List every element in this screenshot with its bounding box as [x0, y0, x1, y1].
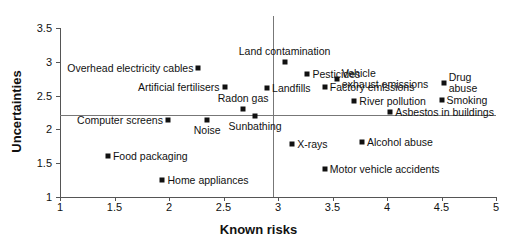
y-tick-label: 1.5	[37, 157, 52, 169]
data-point-marker	[165, 117, 170, 122]
data-point-marker	[322, 166, 327, 171]
data-point-label: Computer screens	[77, 114, 163, 125]
data-point-label: Asbestos in buildings	[395, 106, 494, 117]
data-point-marker	[441, 81, 446, 86]
data-point-marker	[105, 154, 110, 159]
data-point-label: Factory emissions	[330, 82, 415, 93]
y-axis-line	[60, 28, 61, 197]
data-point-label: Motor vehicle accidents	[330, 163, 440, 174]
y-tick-label: 1	[46, 191, 52, 203]
data-point-marker	[253, 113, 258, 118]
y-tick-label: 3.5	[37, 22, 52, 34]
data-point-label: Artificial fertilisers	[138, 81, 220, 92]
y-tick-mark	[56, 129, 60, 130]
y-tick-label: 3	[46, 56, 52, 68]
data-point-marker	[196, 65, 201, 70]
y-tick-label: 2	[46, 123, 52, 135]
y-tick-mark	[56, 62, 60, 63]
data-point-marker	[265, 86, 270, 91]
data-point-label: Food packaging	[113, 151, 188, 162]
data-point-marker	[305, 71, 310, 76]
data-point-label: Smoking	[447, 94, 488, 105]
data-point-marker	[241, 107, 246, 112]
data-point-label: Noise	[194, 125, 221, 136]
x-axis-title: Known risks	[0, 222, 517, 237]
x-tick-label: 2	[166, 201, 172, 213]
x-tick-label: 2.5	[216, 201, 231, 213]
x-tick-label: 4	[384, 201, 390, 213]
data-point-label: Drugabuse	[449, 72, 478, 94]
data-point-label: Home appliances	[167, 175, 248, 186]
data-point-label: Sunbathing	[229, 121, 282, 132]
data-point-marker	[205, 117, 210, 122]
data-point-label: Landfills	[272, 83, 311, 94]
data-point-label: Land contamination	[239, 46, 331, 57]
x-tick-label: 1	[57, 201, 63, 213]
vertical-reference-line	[273, 16, 274, 197]
y-tick-mark	[56, 28, 60, 29]
data-point-marker	[352, 99, 357, 104]
x-tick-label: 4.5	[434, 201, 449, 213]
x-tick-label: 3	[275, 201, 281, 213]
data-point-label: Alcohol abuse	[367, 137, 433, 148]
x-tick-label: 5	[493, 201, 499, 213]
data-point-marker	[160, 178, 165, 183]
data-point-marker	[359, 140, 364, 145]
y-tick-label: 2.5	[37, 90, 52, 102]
x-tick-label: 1.5	[107, 201, 122, 213]
y-tick-mark	[56, 197, 60, 198]
x-tick-label: 3.5	[325, 201, 340, 213]
y-tick-mark	[56, 96, 60, 97]
data-point-marker	[282, 59, 287, 64]
data-point-marker	[322, 85, 327, 90]
data-point-label: Radon gas	[218, 93, 269, 104]
data-point-marker	[222, 84, 227, 89]
data-point-marker	[439, 97, 444, 102]
scatter-chart: 11.522.533.544.55 11.522.533.5 Overhead …	[0, 0, 517, 247]
data-point-marker	[388, 109, 393, 114]
data-point-label: Overhead electricity cables	[67, 62, 193, 73]
y-tick-mark	[56, 163, 60, 164]
data-point-marker	[290, 142, 295, 147]
y-axis-title: Uncertainties	[9, 52, 24, 172]
data-point-label: X-rays	[297, 139, 327, 150]
